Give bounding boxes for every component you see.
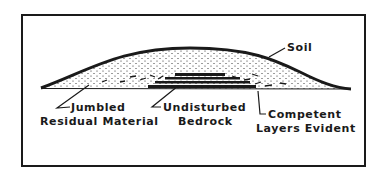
label-jumbled: Jumbled	[71, 101, 126, 114]
soil-profile-figure	[0, 0, 387, 177]
label-layers-evident: Layers Evident	[256, 122, 356, 135]
ground-baseline	[41, 89, 351, 90]
label-residual-material: Residual Material	[40, 115, 159, 128]
label-bedrock: Bedrock	[178, 115, 233, 128]
label-soil: Soil	[287, 41, 312, 54]
label-competent: Competent	[268, 108, 342, 121]
label-undisturbed: Undisturbed	[163, 101, 246, 114]
